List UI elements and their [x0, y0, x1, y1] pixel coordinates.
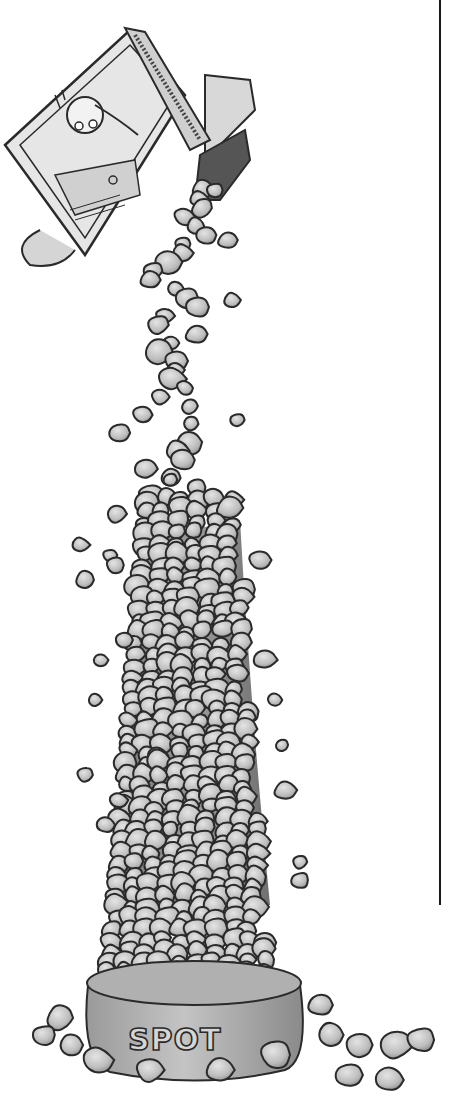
kibble-pieces: [73, 180, 308, 996]
illustration-canvas: SPOT: [0, 0, 465, 1117]
food-box: [5, 28, 255, 266]
bowl-label: SPOT: [128, 1022, 222, 1057]
kibble-pour-illustration: SPOT: [0, 0, 465, 1117]
